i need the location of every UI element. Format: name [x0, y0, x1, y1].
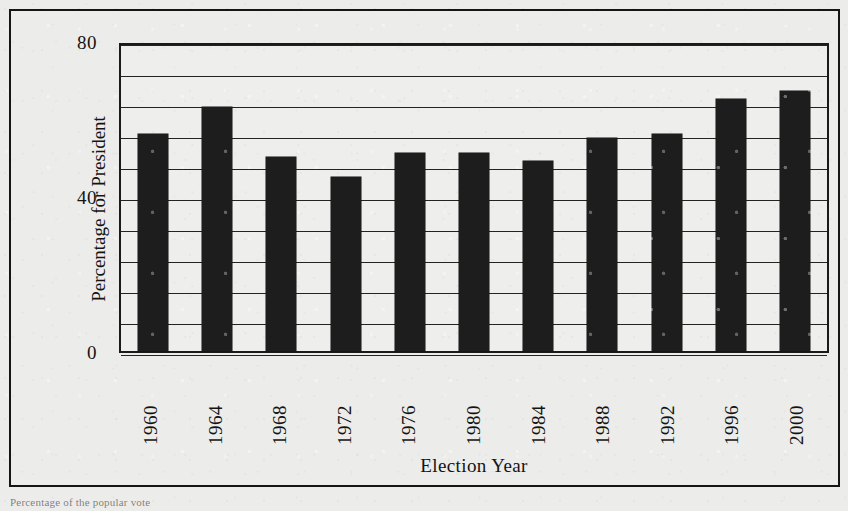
y-axis: Percentage for President 04080: [11, 11, 111, 391]
x-tick-slot: 2000: [764, 357, 829, 445]
x-tick-slot: 1976: [377, 357, 442, 445]
page-bleed-text: Percentage of the popular vote: [10, 496, 310, 510]
bar-1976[interactable]: [395, 153, 425, 351]
x-tick-label-1964: 1964: [205, 357, 227, 445]
bar-1972[interactable]: [331, 177, 361, 351]
x-axis-title: Election Year: [119, 455, 829, 477]
bar-1984[interactable]: [523, 161, 553, 351]
x-tick-label-1968: 1968: [269, 357, 291, 445]
bar-slot: [314, 45, 378, 351]
bar-slot: [185, 45, 249, 351]
bar-1960[interactable]: [138, 134, 168, 351]
bar-slot: [442, 45, 506, 351]
bar-2000[interactable]: [780, 91, 810, 351]
bar-1980[interactable]: [459, 153, 489, 351]
x-tick-label-1980: 1980: [463, 357, 485, 445]
x-tick-slot: 1960: [119, 357, 184, 445]
bar-slot: [570, 45, 634, 351]
bar-slot: [249, 45, 313, 351]
x-tick-slot: 1984: [506, 357, 571, 445]
bar-slot: [635, 45, 699, 351]
x-tick-label-1996: 1996: [721, 357, 743, 445]
x-tick-label-1984: 1984: [528, 357, 550, 445]
bar-1996[interactable]: [716, 99, 746, 351]
bar-1968[interactable]: [266, 157, 296, 351]
x-tick-label-1960: 1960: [140, 357, 162, 445]
x-tick-slot: 1988: [571, 357, 636, 445]
bar-1988[interactable]: [587, 138, 617, 351]
bar-slot: [506, 45, 570, 351]
bar-slot: [763, 45, 827, 351]
x-tick-label-2000: 2000: [786, 357, 808, 445]
x-tick-slot: 1964: [184, 357, 249, 445]
gridline: [121, 355, 827, 356]
x-tick-label-1972: 1972: [334, 357, 356, 445]
x-tick-slot: 1996: [700, 357, 765, 445]
figure-frame: Percentage for President 04080 196019641…: [9, 9, 840, 487]
bar-1992[interactable]: [652, 134, 682, 351]
y-tick-label: 40: [77, 187, 97, 209]
x-tick-slot: 1972: [313, 357, 378, 445]
x-tick-slot: 1992: [635, 357, 700, 445]
bar-slot: [699, 45, 763, 351]
bar-slot: [121, 45, 185, 351]
y-axis-title: Percentage for President: [88, 59, 110, 359]
plot-area: [119, 43, 829, 353]
bar-slot: [378, 45, 442, 351]
y-tick-label: 0: [87, 342, 97, 364]
x-tick-slot: 1980: [442, 357, 507, 445]
bar-1964[interactable]: [202, 107, 232, 351]
y-tick-label: 80: [77, 32, 97, 54]
x-tick-label-1992: 1992: [657, 357, 679, 445]
x-tick-slot: 1968: [248, 357, 313, 445]
x-tick-label-1988: 1988: [592, 357, 614, 445]
x-axis-tick-labels: 1960196419681972197619801984198819921996…: [119, 357, 829, 445]
x-tick-label-1976: 1976: [398, 357, 420, 445]
bar-series: [121, 45, 827, 351]
